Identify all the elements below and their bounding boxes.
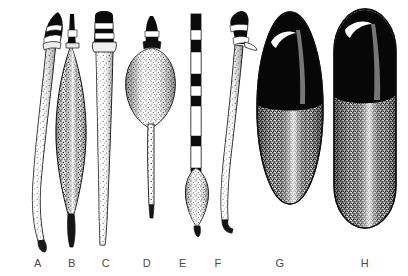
specimen-d-band	[145, 31, 159, 37]
specimen-c-band-upper	[95, 23, 113, 29]
specimen-e-band-3	[191, 86, 201, 96]
specimen-e-band-4	[191, 106, 201, 136]
specimen-b-tip	[68, 214, 75, 247]
specimen-e-band-5	[191, 146, 201, 168]
plate-illustration: A B C D E F G H	[0, 0, 408, 276]
specimen-c-band-mid	[95, 33, 114, 39]
specimen-label-h: H	[361, 257, 369, 269]
specimen-e-band-1	[191, 30, 201, 40]
specimen-d-tail	[148, 124, 154, 205]
specimen-label-e: E	[179, 257, 187, 269]
specimen-label-f: F	[214, 257, 221, 269]
specimen-d-collar	[143, 41, 161, 50]
specimen-label-g: G	[275, 257, 284, 269]
specimen-label-b: B	[68, 257, 76, 269]
specimen-c-collar	[92, 42, 116, 52]
specimen-label-c: C	[102, 257, 110, 269]
specimen-plate: A B C D E F G H	[0, 0, 408, 276]
specimen-b-collar	[66, 43, 79, 48]
specimen-d-tip	[149, 205, 154, 218]
specimen-label-a: A	[34, 257, 42, 269]
specimen-label-d: D	[143, 257, 151, 269]
specimen-b-band	[68, 30, 77, 37]
specimen-h	[332, 8, 400, 232]
specimen-e-band-2	[191, 52, 201, 74]
